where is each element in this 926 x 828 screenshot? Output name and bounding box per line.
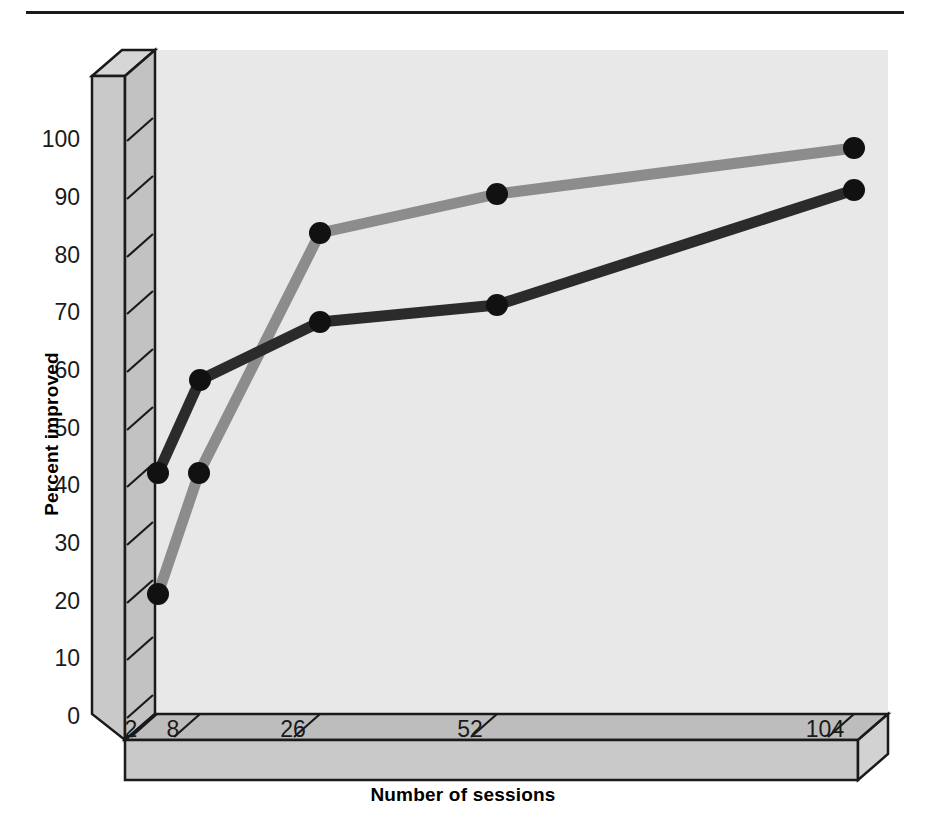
chart-figure: 100 90 80 70 60 50 40 30 20 10 0 2 8 26 …	[0, 0, 926, 828]
x-axis-floor-front-face	[125, 740, 858, 780]
x-axis-floor-top-face	[125, 714, 888, 740]
data-point-gray-26	[309, 222, 331, 244]
data-point-dark-26	[309, 311, 331, 333]
y-tick-label-0: 0	[6, 703, 80, 730]
y-tick-label-90: 90	[6, 184, 80, 211]
data-point-dark-2	[147, 462, 169, 484]
data-point-gray-8	[188, 462, 210, 484]
y-tick-label-100: 100	[6, 126, 80, 153]
y-axis-slab-inner-face	[125, 50, 155, 740]
y-tick-label-10: 10	[6, 645, 80, 672]
data-point-dark-52	[486, 294, 508, 316]
data-point-gray-2	[147, 583, 169, 605]
data-point-dark-104	[843, 179, 865, 201]
x-tick-label-52: 52	[435, 716, 505, 743]
x-tick-label-8: 8	[138, 716, 208, 743]
data-point-dark-8	[189, 369, 211, 391]
x-tick-label-104: 104	[790, 716, 860, 743]
y-axis-title: Percent improved	[41, 284, 63, 584]
data-point-gray-52	[486, 183, 508, 205]
chart-canvas	[0, 0, 926, 828]
y-axis-slab-front-face	[92, 76, 125, 740]
data-point-gray-104	[843, 137, 865, 159]
plot-area-background	[155, 50, 888, 714]
x-axis-title: Number of sessions	[0, 784, 926, 806]
x-tick-label-26: 26	[258, 716, 328, 743]
y-tick-label-20: 20	[6, 588, 80, 615]
y-tick-label-80: 80	[6, 242, 80, 269]
